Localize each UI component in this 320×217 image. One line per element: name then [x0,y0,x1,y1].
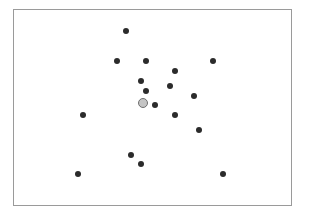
data-point [196,127,202,133]
data-point [143,58,149,64]
data-point [191,93,197,99]
data-point [128,152,134,158]
data-point [152,102,158,108]
data-point [167,83,173,89]
data-point [210,58,216,64]
data-point [80,112,86,118]
data-point [114,58,120,64]
data-point [172,68,178,74]
data-point [75,171,81,177]
highlighted-data-point [138,98,148,108]
data-point [143,88,149,94]
data-point [138,78,144,84]
data-point [123,28,129,34]
data-point [220,171,226,177]
data-point [172,112,178,118]
data-point [138,161,144,167]
